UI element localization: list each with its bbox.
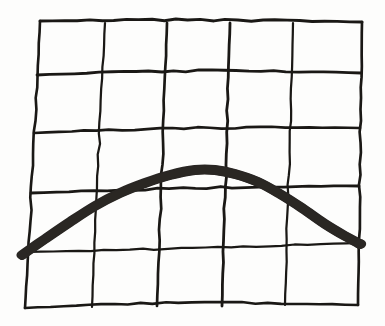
figure-canvas (0, 0, 385, 326)
figure-root: Hand-drawn grid with plotted curve A han… (0, 0, 385, 326)
curve-right-endpoint (354, 239, 366, 249)
curve-left-endpoint (16, 251, 27, 260)
canvas-background (0, 0, 385, 326)
